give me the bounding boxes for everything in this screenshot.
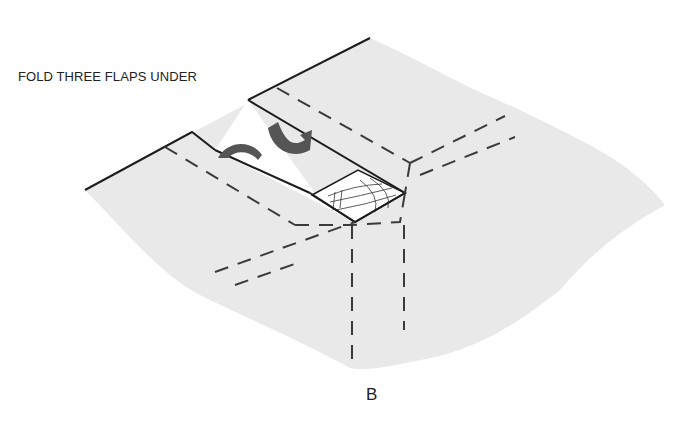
fold-diagram: FOLD THREE FLAPS UNDER B <box>0 0 676 446</box>
figure-label: B <box>366 385 377 405</box>
instruction-text: FOLD THREE FLAPS UNDER <box>18 69 197 84</box>
